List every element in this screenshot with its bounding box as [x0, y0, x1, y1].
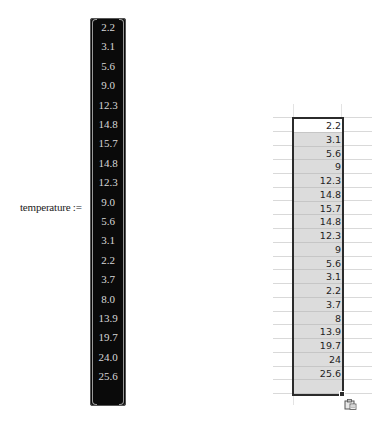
gridline	[341, 145, 372, 146]
gridline	[341, 228, 372, 229]
gridline	[273, 256, 293, 257]
spreadsheet-cell[interactable]: 14.8	[294, 215, 342, 229]
gridline	[273, 242, 293, 243]
gridline	[341, 104, 342, 117]
gridline	[273, 159, 293, 160]
gridline	[273, 379, 293, 380]
gridline	[273, 228, 293, 229]
gridline	[273, 283, 293, 284]
gridline	[273, 352, 293, 353]
gridline	[273, 269, 293, 270]
gridline	[341, 338, 372, 339]
gridline	[273, 145, 293, 146]
gridline	[273, 173, 293, 174]
gridline	[293, 395, 294, 405]
gridline	[341, 173, 372, 174]
gridline	[341, 352, 372, 353]
gridline	[341, 117, 372, 118]
spreadsheet-cell[interactable]: 12.3	[294, 229, 342, 243]
spreadsheet-cell[interactable]: 25.6	[294, 367, 342, 381]
gridline	[273, 200, 293, 201]
gridline	[341, 311, 372, 312]
gridline	[293, 104, 294, 117]
spreadsheet-cell[interactable]: 19.7	[294, 339, 342, 353]
gridline	[273, 338, 293, 339]
gridline	[341, 187, 372, 188]
spreadsheet-cell[interactable]: 12.3	[294, 174, 342, 188]
gridline	[341, 269, 372, 270]
gridline	[341, 214, 372, 215]
spreadsheet-cell[interactable]: 2.2	[294, 284, 342, 298]
gridline	[341, 297, 372, 298]
spreadsheet-cell[interactable]: 5.6	[294, 257, 342, 271]
gridline	[341, 131, 372, 132]
spreadsheet-cell[interactable]: 5.6	[294, 147, 342, 161]
spreadsheet-cell[interactable]: 14.8	[294, 188, 342, 202]
gridline	[273, 324, 293, 325]
gridline	[273, 187, 293, 188]
clipboard-paste-icon[interactable]	[344, 396, 357, 407]
spreadsheet-cell[interactable]: 15.7	[294, 202, 342, 216]
gridline	[341, 159, 372, 160]
gridline	[341, 324, 372, 325]
gridline	[273, 366, 293, 367]
spreadsheet-cell[interactable]: 9	[294, 160, 342, 174]
selected-cell-range[interactable]: 2.2 3.1 5.6 9 12.3 14.8 15.7 14.8 12.3 9…	[292, 117, 344, 396]
spreadsheet-cell[interactable]: 8	[294, 312, 342, 326]
gridline	[341, 366, 372, 367]
gridline	[273, 297, 293, 298]
gridline	[273, 311, 293, 312]
spreadsheet-cell[interactable]: 13.9	[294, 325, 342, 339]
gridline	[341, 242, 372, 243]
gridline	[273, 214, 293, 215]
spreadsheet-cell[interactable]: 2.2	[294, 119, 342, 133]
spreadsheet-cell[interactable]	[294, 380, 342, 394]
gridline	[341, 379, 372, 380]
gridline	[341, 200, 372, 201]
gridline	[341, 256, 372, 257]
gridline	[273, 117, 293, 118]
spreadsheet-cell[interactable]: 3.1	[294, 270, 342, 284]
spreadsheet-cell[interactable]: 24	[294, 353, 342, 367]
spreadsheet-cell[interactable]: 9	[294, 243, 342, 257]
gridline	[341, 283, 372, 284]
gridline	[273, 131, 293, 132]
spreadsheet-cell[interactable]: 3.1	[294, 133, 342, 147]
spreadsheet-cell[interactable]: 3.7	[294, 298, 342, 312]
